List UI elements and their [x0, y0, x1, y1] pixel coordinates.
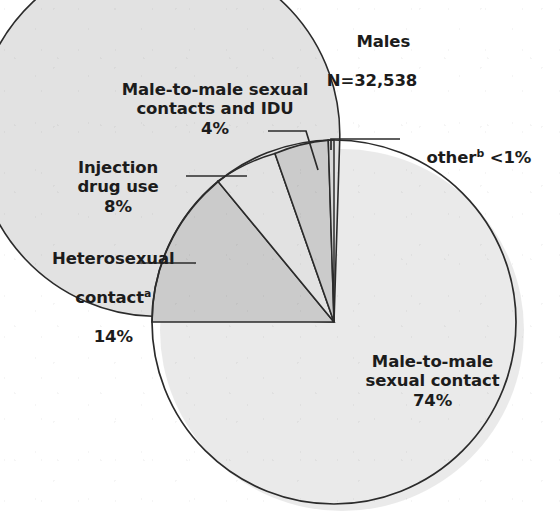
other-footnote-marker: b	[476, 147, 484, 160]
slice-label-injection-drug-use: Injection drug use 8%	[52, 158, 184, 216]
heterosexual-label-value: 14%	[94, 327, 133, 346]
pie-chart-figure: Males N=32,538 Male-to-male sexual conta…	[0, 0, 560, 525]
slice-label-male-to-male-sexual-contact: Male-to-male sexual contact 74%	[345, 352, 520, 410]
other-label-text: other	[427, 148, 477, 167]
other-label-value: <1%	[490, 148, 532, 167]
slice-label-other: otherb <1%	[404, 129, 531, 187]
heterosexual-footnote-marker: a	[144, 287, 151, 300]
chart-title: Males	[356, 32, 410, 51]
heterosexual-label-line2: contact	[75, 288, 144, 307]
heterosexual-label-line1: Heterosexual	[52, 249, 175, 268]
slice-label-heterosexual-contact: Heterosexual contacta 14%	[14, 230, 190, 366]
slice-label-male-to-male-sexual-contacts-and-idu: Male-to-male sexual contacts and IDU 4%	[100, 80, 330, 138]
